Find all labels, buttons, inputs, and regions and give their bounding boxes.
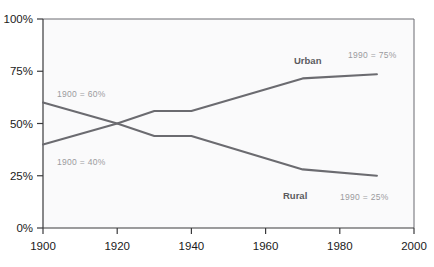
y-tick-label-50: 50%: [0, 118, 33, 130]
line-chart-plot: [0, 0, 434, 267]
annotation-rural-start: 1900 = 40%: [57, 157, 106, 167]
x-tick-label-1920: 1920: [104, 240, 130, 252]
annotation-urban-end: 1990 = 75%: [348, 50, 397, 60]
y-tick-label-0: 0%: [0, 222, 33, 234]
annotation-rural-end: 1990 = 25%: [340, 192, 389, 202]
y-axis-ticks: [37, 19, 43, 228]
chart-container: 100% 75% 50% 25% 0% 1900 1920 1940 1960 …: [0, 0, 434, 267]
y-tick-label-25: 25%: [0, 170, 33, 182]
x-tick-label-1940: 1940: [179, 240, 205, 252]
x-tick-label-1900: 1900: [30, 240, 56, 252]
x-axis-ticks: [43, 228, 414, 234]
x-tick-label-1960: 1960: [253, 240, 279, 252]
series-label-urban: Urban: [294, 55, 321, 66]
y-tick-label-75: 75%: [0, 65, 33, 77]
series-label-rural: Rural: [283, 190, 307, 201]
x-tick-label-2000: 2000: [401, 240, 427, 252]
x-tick-label-1980: 1980: [327, 240, 353, 252]
y-tick-label-100: 100%: [0, 13, 33, 25]
annotation-urban-start: 1900 = 60%: [57, 89, 106, 99]
